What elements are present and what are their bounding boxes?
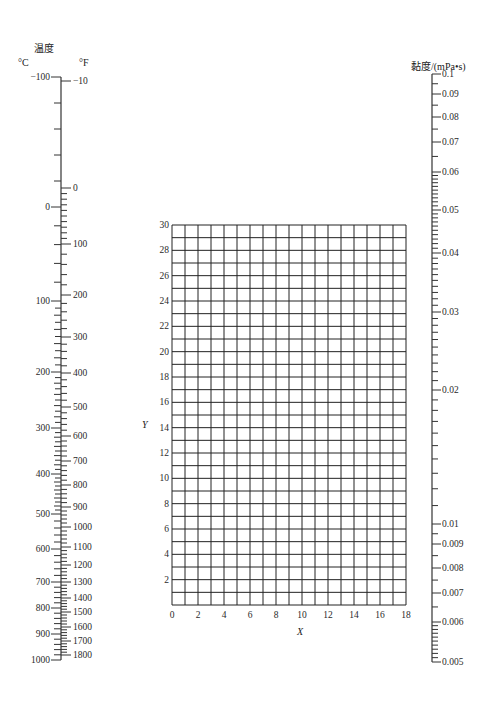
fahrenheit-tick-label: 300	[73, 332, 87, 342]
grid-y-tick-label: 18	[160, 372, 170, 382]
fahrenheit-tick-label: 100	[73, 239, 87, 249]
grid-y-tick-label: 6	[164, 524, 169, 534]
fahrenheit-tick-label: 800	[73, 480, 87, 490]
grid-x-tick-label: 12	[318, 610, 338, 620]
grid-x-tick-label: 10	[292, 610, 312, 620]
grid-x-tick-label: 6	[240, 610, 260, 620]
grid-y-tick-label: 30	[160, 220, 170, 230]
fahrenheit-tick-label: 1800	[73, 650, 92, 660]
viscosity-tick-label: 0.03	[442, 307, 459, 317]
grid-x-tick-label: 14	[344, 610, 364, 620]
grid-x-tick-label: 2	[188, 610, 208, 620]
viscosity-tick-label: 0.04	[442, 248, 459, 258]
grid-y-tick-label: 14	[160, 423, 170, 433]
viscosity-tick-label: 0.07	[442, 137, 459, 147]
grid-y-tick-label: 4	[164, 549, 169, 559]
fahrenheit-tick-label: 200	[73, 290, 87, 300]
viscosity-tick-label: 0.005	[442, 657, 463, 667]
grid-y-tick-label: 28	[160, 245, 170, 255]
celsius-tick-label: 200	[36, 367, 50, 377]
grid-x-tick-label: 4	[214, 610, 234, 620]
grid-y-tick-label: 8	[164, 499, 169, 509]
fahrenheit-tick-label: 1400	[73, 593, 92, 603]
viscosity-tick-label: 0.05	[442, 205, 459, 215]
grid-x-tick-label: 16	[370, 610, 390, 620]
viscosity-tick-label: 0.1	[442, 69, 454, 79]
celsius-tick-label: 800	[36, 603, 50, 613]
fahrenheit-tick-label: 400	[73, 368, 87, 378]
celsius-tick-label: 900	[36, 629, 50, 639]
celsius-tick-label: 0	[45, 202, 50, 212]
fahrenheit-tick-label: 900	[73, 502, 87, 512]
viscosity-tick-label: 0.08	[442, 112, 459, 122]
grid-x-tick-label: 0	[162, 610, 182, 620]
fahrenheit-tick-label: 1500	[73, 607, 92, 617]
viscosity-tick-label: 0.06	[442, 167, 459, 177]
grid-x-tick-label: 8	[266, 610, 286, 620]
fahrenheit-tick-label: 1300	[73, 577, 92, 587]
celsius-tick-label: 500	[36, 509, 50, 519]
fahrenheit-tick-label: 0	[73, 183, 78, 193]
grid-y-tick-label: 10	[160, 473, 170, 483]
viscosity-tick-label: 0.006	[442, 617, 463, 627]
grid-y-tick-label: 16	[160, 397, 170, 407]
fahrenheit-tick-label: −10	[73, 76, 88, 86]
fahrenheit-tick-label: 500	[73, 402, 87, 412]
grid-y-tick-label: 24	[160, 296, 170, 306]
grid-y-tick-label: 2	[164, 575, 169, 585]
celsius-tick-label: 400	[36, 469, 50, 479]
grid-y-tick-label: 12	[160, 448, 170, 458]
viscosity-tick-label: 0.01	[442, 519, 459, 529]
fahrenheit-tick-label: 1600	[73, 622, 92, 632]
viscosity-tick-label: 0.007	[442, 588, 463, 598]
celsius-tick-label: 600	[36, 544, 50, 554]
fahrenheit-tick-label: 600	[73, 431, 87, 441]
fahrenheit-tick-label: 1100	[73, 542, 92, 552]
celsius-tick-label: 1000	[31, 655, 50, 665]
fahrenheit-tick-label: 1200	[73, 560, 92, 570]
grid-y-tick-label: 22	[160, 321, 170, 331]
celsius-tick-label: 700	[36, 577, 50, 587]
celsius-tick-label: 100	[36, 296, 50, 306]
grid-y-tick-label: 20	[160, 347, 170, 357]
viscosity-tick-label: 0.09	[442, 89, 459, 99]
celsius-tick-label: −100	[30, 72, 50, 82]
viscosity-tick-label: 0.008	[442, 563, 463, 573]
fahrenheit-tick-label: 1000	[73, 522, 92, 532]
viscosity-tick-label: 0.009	[442, 539, 463, 549]
fahrenheit-tick-label: 1700	[73, 636, 92, 646]
grid-x-tick-label: 18	[396, 610, 416, 620]
fahrenheit-tick-label: 700	[73, 456, 87, 466]
grid-y-tick-label: 26	[160, 271, 170, 281]
celsius-tick-label: 300	[36, 423, 50, 433]
viscosity-tick-label: 0.02	[442, 385, 459, 395]
